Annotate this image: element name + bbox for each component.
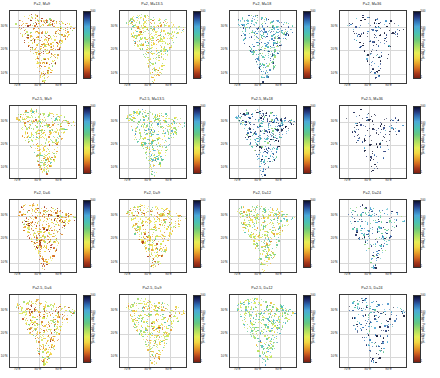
data-point bbox=[155, 150, 156, 151]
data-point bbox=[241, 307, 242, 308]
data-point bbox=[369, 136, 370, 137]
data-point bbox=[265, 212, 266, 213]
data-point bbox=[265, 221, 266, 222]
data-point bbox=[257, 346, 258, 347]
data-point bbox=[44, 77, 45, 78]
data-point bbox=[52, 141, 53, 142]
data-point bbox=[241, 208, 242, 209]
data-point bbox=[31, 321, 32, 322]
data-point bbox=[267, 72, 268, 73]
data-point bbox=[150, 346, 151, 347]
data-point bbox=[266, 76, 268, 78]
data-point bbox=[41, 339, 42, 340]
data-point bbox=[40, 229, 41, 230]
data-point bbox=[263, 215, 264, 216]
data-point bbox=[278, 311, 279, 312]
data-point bbox=[46, 330, 47, 331]
data-point bbox=[264, 260, 265, 261]
data-point bbox=[154, 261, 155, 262]
x-tick-label: 90°E bbox=[385, 83, 392, 87]
data-point bbox=[275, 126, 276, 127]
data-point bbox=[264, 149, 265, 150]
data-point bbox=[51, 56, 52, 57]
data-point bbox=[64, 315, 65, 316]
data-point bbox=[144, 242, 146, 244]
data-point bbox=[372, 309, 373, 310]
data-point bbox=[36, 323, 38, 325]
y-tick-label: 20°N bbox=[111, 142, 118, 146]
data-point bbox=[248, 307, 249, 308]
data-point bbox=[179, 312, 180, 313]
data-point bbox=[32, 25, 33, 26]
data-point bbox=[256, 37, 257, 38]
data-point bbox=[139, 15, 140, 16]
data-point bbox=[42, 256, 43, 257]
data-point bbox=[251, 239, 252, 240]
data-point bbox=[133, 32, 134, 33]
map-panel-r1c3: P=2, M=1870°E80°E90°E30°N20°N10°N5001005… bbox=[220, 0, 330, 95]
data-point bbox=[274, 218, 275, 219]
data-point bbox=[251, 302, 252, 303]
y-axis-ticks: 30°N20°N10°N bbox=[109, 10, 118, 82]
data-point bbox=[34, 224, 35, 225]
data-point bbox=[379, 254, 380, 255]
data-point bbox=[392, 120, 393, 121]
data-point bbox=[379, 357, 380, 358]
data-point bbox=[357, 35, 358, 36]
data-point bbox=[356, 116, 357, 117]
data-point bbox=[42, 351, 43, 352]
data-point bbox=[64, 312, 65, 313]
data-point bbox=[65, 214, 66, 215]
data-point bbox=[265, 355, 266, 356]
data-point bbox=[265, 115, 267, 117]
data-point bbox=[272, 130, 273, 131]
data-point bbox=[150, 221, 151, 222]
data-point bbox=[264, 359, 265, 360]
data-point bbox=[166, 25, 167, 26]
data-point bbox=[45, 227, 46, 228]
data-point bbox=[29, 315, 31, 317]
data-point bbox=[154, 224, 155, 225]
data-point bbox=[53, 114, 54, 115]
data-point bbox=[134, 233, 135, 234]
data-point bbox=[128, 216, 129, 217]
data-point bbox=[143, 322, 144, 323]
data-point bbox=[386, 237, 387, 238]
data-point bbox=[261, 320, 262, 321]
data-point bbox=[37, 223, 38, 224]
data-point bbox=[265, 344, 266, 345]
data-point bbox=[256, 143, 257, 144]
data-point bbox=[270, 155, 271, 156]
data-point bbox=[274, 348, 275, 349]
data-point bbox=[46, 247, 47, 248]
return-period-scatter bbox=[340, 200, 406, 272]
data-point bbox=[377, 257, 378, 258]
data-point bbox=[137, 44, 138, 45]
data-point bbox=[133, 215, 134, 216]
data-point bbox=[257, 310, 258, 311]
data-point bbox=[50, 234, 51, 235]
data-point bbox=[386, 230, 388, 232]
data-point bbox=[42, 215, 43, 216]
data-point bbox=[361, 20, 362, 21]
data-point bbox=[50, 22, 51, 23]
y-tick-label: 10°N bbox=[1, 71, 8, 75]
data-point bbox=[51, 211, 52, 212]
data-point bbox=[370, 156, 371, 157]
data-point bbox=[256, 42, 257, 43]
data-point bbox=[53, 317, 54, 318]
data-point bbox=[136, 322, 137, 323]
data-point bbox=[268, 151, 269, 152]
data-point bbox=[384, 240, 385, 241]
data-point bbox=[253, 243, 254, 244]
data-point bbox=[49, 325, 50, 326]
data-point bbox=[265, 311, 266, 312]
data-point bbox=[148, 65, 149, 66]
data-point bbox=[373, 361, 374, 362]
data-point bbox=[274, 52, 275, 53]
data-point bbox=[26, 137, 27, 138]
data-point bbox=[384, 43, 385, 44]
data-point bbox=[175, 312, 177, 314]
data-point bbox=[384, 238, 385, 239]
data-point bbox=[141, 14, 142, 15]
